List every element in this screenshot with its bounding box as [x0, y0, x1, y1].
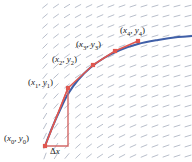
marker-point-1: [66, 86, 70, 90]
label-point-3: (x3, y3): [76, 40, 101, 51]
marker-point-2: [91, 63, 95, 67]
slope-field: [42, 4, 191, 159]
marker-point-3: [113, 49, 117, 53]
euler-method-figure: (x0, y0) (x1, y1) (x2, y2) (x3, y3) (x4,…: [0, 0, 192, 162]
label-point-0: (x0, y0): [4, 134, 29, 145]
marker-point-0: [43, 144, 47, 148]
label-point-1: (x1, y1): [28, 78, 53, 89]
label-point-2: (x2, y2): [52, 55, 77, 66]
label-point-4: (x4, y4): [120, 26, 145, 37]
label-delta-x: Δx: [50, 147, 60, 156]
marker-point-4: [136, 39, 140, 43]
